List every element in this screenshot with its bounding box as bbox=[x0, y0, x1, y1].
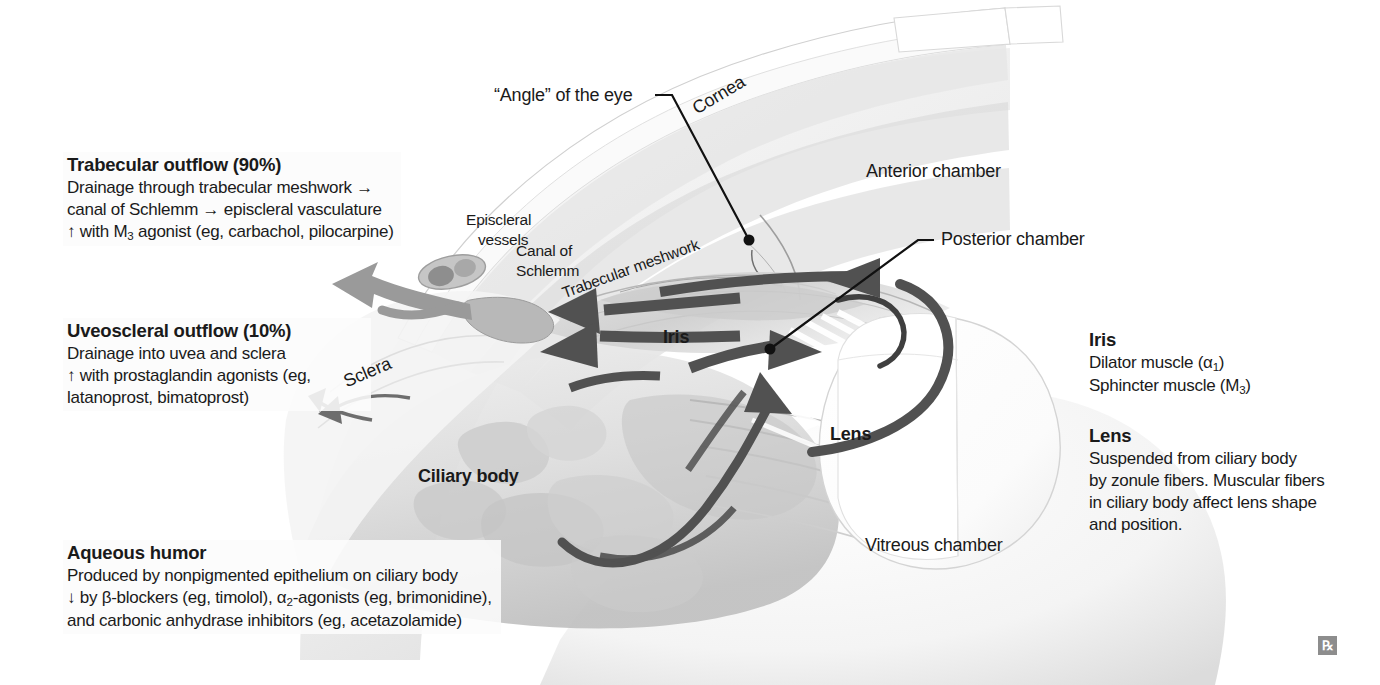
iris-sphincter-post: ) bbox=[1245, 376, 1250, 395]
iris-dilator-post: ) bbox=[1219, 353, 1224, 372]
iris-dilator-pre: Dilator muscle (α bbox=[1089, 353, 1213, 372]
anterior-chamber-label: Anterior chamber bbox=[866, 160, 1001, 183]
canal-of-schlemm-label-line1: Canal of bbox=[516, 242, 572, 261]
aqueous-humor-block: Aqueous humor Produced by nonpigmented e… bbox=[63, 540, 501, 634]
iris-sphincter-pre: Sphincter muscle (M bbox=[1089, 376, 1239, 395]
trabecular-outflow-block: Trabecular outflow (90%) Drainage throug… bbox=[63, 152, 401, 246]
iris-info-heading: Iris bbox=[1089, 329, 1339, 351]
trabecular-outflow-line-1: Drainage through trabecular meshwork → bbox=[67, 177, 397, 199]
lens-info-line-1: Suspended from ciliary body bbox=[1089, 448, 1359, 470]
aqueous-humor-heading: Aqueous humor bbox=[67, 542, 497, 564]
eye-anatomy-figure: Trabecular outflow (90%) Drainage throug… bbox=[0, 0, 1380, 685]
aqueous-humor-line-1: Produced by nonpigmented epithelium on c… bbox=[67, 565, 497, 587]
angle-of-the-eye-label: “Angle” of the eye bbox=[494, 84, 632, 107]
iris-label: Iris bbox=[663, 326, 689, 349]
lens-info-heading: Lens bbox=[1089, 425, 1359, 447]
ciliary-body-label: Ciliary body bbox=[418, 465, 519, 488]
posterior-chamber-leader-dot bbox=[765, 344, 776, 355]
aqueous-alpha2-post: -agonists (eg, brimonidine), bbox=[293, 588, 492, 607]
uveoscleral-outflow-line-2: ↑ with prostaglandin agonists (eg, bbox=[67, 365, 367, 387]
trabecular-m3-post: agonist (eg, carbachol, pilocarpine) bbox=[134, 222, 394, 241]
posterior-chamber-label: Posterior chamber bbox=[941, 228, 1085, 251]
lens-info-block: Lens Suspended from ciliary body by zonu… bbox=[1085, 423, 1363, 538]
iris-dilator-line: Dilator muscle (α1) bbox=[1089, 352, 1339, 375]
aqueous-humor-line-3: and carbonic anhydrase inhibitors (eg, a… bbox=[67, 610, 497, 632]
vitreous-chamber-label: Vitreous chamber bbox=[865, 534, 1003, 557]
rx-icon: ℞ bbox=[1318, 636, 1337, 655]
lens-info-line-2: by zonule fibers. Muscular fibers bbox=[1089, 470, 1359, 492]
episcleral-vessels-label-line1: Episcleral bbox=[466, 211, 531, 230]
trabecular-m3-pre: ↑ with M bbox=[67, 222, 127, 241]
uveoscleral-outflow-line-1: Drainage into uvea and sclera bbox=[67, 343, 367, 365]
lens-label: Lens bbox=[830, 423, 871, 446]
uveoscleral-outflow-heading: Uveoscleral outflow (10%) bbox=[67, 320, 367, 342]
iris-info-block: Iris Dilator muscle (α1) Sphincter muscl… bbox=[1085, 327, 1343, 400]
aqueous-alpha2-pre: ↓ by β-blockers (eg, timolol), α bbox=[67, 588, 286, 607]
trabecular-outflow-line-3: ↑ with M3 agonist (eg, carbachol, piloca… bbox=[67, 221, 397, 244]
uveoscleral-outflow-block: Uveoscleral outflow (10%) Drainage into … bbox=[63, 318, 371, 411]
lens-info-line-4: and position. bbox=[1089, 514, 1359, 536]
canal-of-schlemm-label-line2: Schlemm bbox=[516, 262, 579, 281]
angle-leader-dot bbox=[744, 235, 755, 246]
lens-info-line-3: in ciliary body affect lens shape bbox=[1089, 492, 1359, 514]
trabecular-outflow-line-2: canal of Schlemm → episcleral vasculatur… bbox=[67, 199, 397, 221]
uveoscleral-outflow-line-3: latanoprost, bimatoprost) bbox=[67, 387, 367, 409]
aqueous-humor-line-2: ↓ by β-blockers (eg, timolol), α2-agonis… bbox=[67, 587, 497, 610]
trabecular-outflow-heading: Trabecular outflow (90%) bbox=[67, 154, 397, 176]
iris-sphincter-line: Sphincter muscle (M3) bbox=[1089, 375, 1339, 398]
